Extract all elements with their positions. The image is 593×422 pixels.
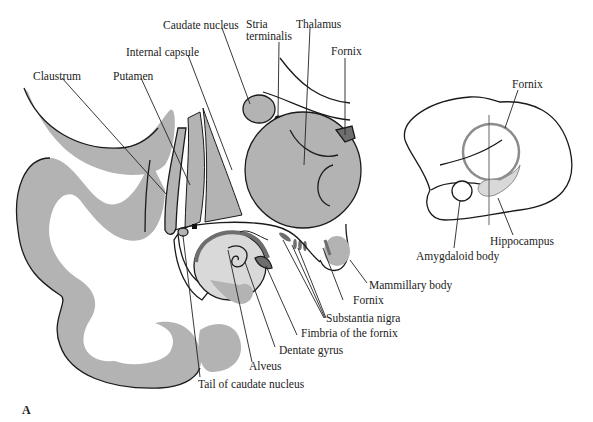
label-fornix-bottom: Fornix [353,294,384,306]
lateral-view [404,97,571,225]
label-caudate-nucleus: Caudate nucleus [163,19,239,31]
label-mammillary-body: Mammillary body [369,279,453,292]
hippocampus-section [174,222,320,304]
label-alveus: Alveus [249,360,282,372]
figure-svg: Caudate nucleus Stria terminalis Thalamu… [0,0,593,422]
anatomy-figure: Caudate nucleus Stria terminalis Thalamu… [0,0,593,422]
label-thalamus: Thalamus [296,18,342,30]
label-substantia-nigra: Substantia nigra [326,312,400,325]
putamen [185,108,242,228]
label-claustrum: Claustrum [33,70,81,82]
fornix-ring [463,124,519,180]
lateral-leader-lines [454,90,518,248]
label-dentate-gyrus: Dentate gyrus [279,344,344,357]
label-stria-terminalis-line2: terminalis [246,30,293,42]
label-lateral-hippocampus: Hippocampus [490,235,554,248]
tail-of-caudate [178,228,188,236]
label-lateral-fornix: Fornix [512,78,543,90]
label-tail-of-caudate-nucleus: Tail of caudate nucleus [198,378,305,390]
label-fornix-top: Fornix [331,45,362,57]
label-putamen: Putamen [113,70,153,82]
panel-label: A [22,403,31,417]
label-fimbria-of-the-fornix: Fimbria of the fornix [301,327,398,339]
amygdaloid-body [452,181,472,201]
label-lateral-amygdaloid-body: Amygdaloid body [416,250,500,263]
label-stria-terminalis-line1: Stria [246,18,268,30]
label-internal-capsule: Internal capsule [126,46,199,59]
